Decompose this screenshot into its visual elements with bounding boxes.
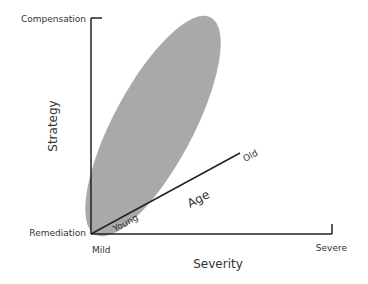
y-axis-label: Strategy (46, 100, 60, 151)
x-right-label: Severe (316, 243, 348, 253)
age-end-label: Old (241, 148, 259, 164)
diagram-canvas: Compensation Remediation Strategy Mild S… (0, 0, 368, 284)
x-left-label: Mild (92, 245, 110, 255)
response-ellipse (60, 0, 246, 253)
age-axis-label: Age (185, 187, 212, 210)
y-top-label: Compensation (21, 14, 86, 24)
y-bottom-label: Remediation (29, 228, 86, 238)
x-axis-label: Severity (193, 257, 243, 271)
